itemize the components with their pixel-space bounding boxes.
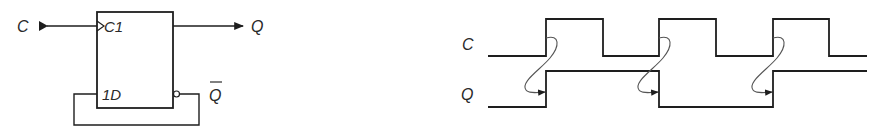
data-pin-label: 1D: [102, 86, 121, 103]
input-arrowhead-icon: [39, 21, 48, 31]
clock-pin-label: C1: [104, 18, 123, 35]
causality-arrow-3: [752, 37, 784, 92]
output-q-label: Q: [251, 18, 263, 35]
feedback-wire: [74, 94, 199, 125]
inversion-bubble-icon: [174, 91, 180, 97]
clock-triangle-icon: [97, 21, 104, 31]
d-flipflop-circuit: C C1 1D Q Q: [17, 12, 263, 125]
output-q-bar-label: Q: [209, 87, 221, 104]
clock-waveform: [488, 19, 867, 56]
timing-label-c: C: [462, 36, 474, 53]
causality-arrows: [525, 37, 784, 92]
q-waveform: [488, 71, 867, 107]
causality-arrow-2: [638, 37, 670, 92]
causality-arrow-1: [525, 37, 557, 92]
diagram-canvas: C C1 1D Q Q C Q: [0, 0, 883, 135]
timing-label-q: Q: [461, 86, 473, 103]
input-c-label: C: [17, 18, 29, 35]
timing-diagram: C Q: [461, 19, 867, 107]
